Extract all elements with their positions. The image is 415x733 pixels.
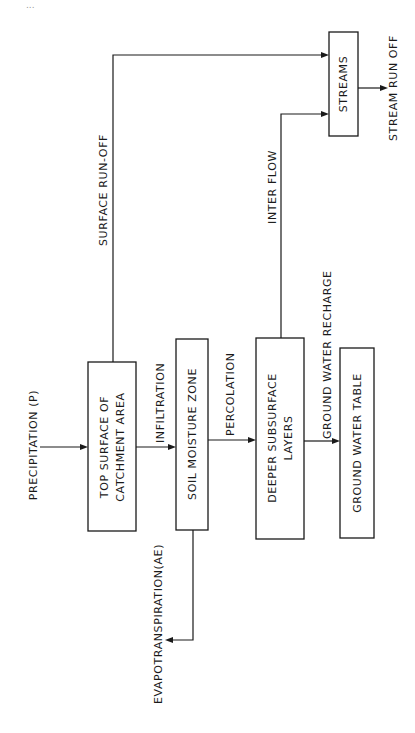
box-ground-water-table-label: GROUND WATER TABLE (351, 373, 364, 513)
edge-evapotranspiration: EVAPOTRANSPIRATION(AE) (152, 530, 193, 704)
label-evapotranspiration: EVAPOTRANSPIRATION(AE) (152, 544, 165, 704)
box-deeper-subsurface-layers: DEEPER SUBSURFACE LAYERS (256, 338, 304, 539)
label-ground-water-recharge: GROUND WATER RECHARGE (321, 270, 334, 439)
arrow-head-icon (321, 52, 329, 58)
edge-precipitation: PRECIPITATION (P) (27, 390, 88, 500)
edge-surface-runoff: SURFACE RUN-OFF (97, 52, 329, 362)
hydrologic-flow-diagram: ... TOP SURFACE OF CATCHMENT AREA SOIL M… (0, 0, 415, 733)
edge-ground-water-recharge: GROUND WATER RECHARGE (304, 270, 340, 444)
box-deeper-line2: LAYERS (282, 416, 295, 461)
arrow-head-icon (80, 444, 88, 450)
box-streams-label: STREAMS (337, 56, 350, 113)
edge-infiltration: INFILTRATION (136, 363, 176, 450)
label-surface-runoff: SURFACE RUN-OFF (97, 134, 110, 246)
label-percolation: PERCOLATION (224, 352, 237, 436)
label-stream-runoff: STREAM RUN OFF (387, 35, 400, 141)
page-number: ... (26, 0, 35, 10)
arrow-head-icon (248, 437, 256, 443)
edge-inter-flow: INTER FLOW (266, 111, 329, 338)
box-deeper-line1: DEEPER SUBSURFACE (266, 373, 279, 503)
label-infiltration: INFILTRATION (154, 363, 167, 443)
label-inter-flow: INTER FLOW (266, 150, 279, 224)
arrow-head-icon (165, 637, 173, 643)
box-soil-moisture-label: SOIL MOISTURE ZONE (186, 368, 199, 500)
edge-stream-runoff: STREAM RUN OFF (358, 35, 400, 141)
box-top-surface-line1: TOP SURFACE OF (98, 396, 111, 499)
label-precipitation: PRECIPITATION (P) (27, 390, 40, 500)
arrow-head-icon (321, 111, 329, 117)
arrow-head-icon (168, 444, 176, 450)
box-soil-moisture-zone: SOIL MOISTURE ZONE (176, 339, 208, 530)
box-top-surface-catchment: TOP SURFACE OF CATCHMENT AREA (88, 362, 136, 531)
edge-percolation: PERCOLATION (208, 352, 256, 443)
box-ground-water-table: GROUND WATER TABLE (340, 348, 374, 538)
box-top-surface-line2: CATCHMENT AREA (114, 392, 127, 501)
box-streams: STREAMS (329, 32, 358, 136)
